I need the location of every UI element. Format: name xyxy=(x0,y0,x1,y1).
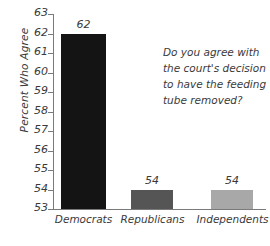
annotation-line-4: tube removed? xyxy=(163,92,270,108)
y-tick-label: 57 xyxy=(34,123,48,136)
y-tick-mark xyxy=(48,209,54,210)
bar-democrats[interactable]: 62 xyxy=(61,34,106,210)
bar-independents[interactable]: 54 xyxy=(211,190,253,210)
bar-chart: Percent Who Agree 63 62 61 60 59 58 xyxy=(0,0,270,246)
y-tick-mark xyxy=(48,34,54,35)
x-label-republicans: Republicans xyxy=(115,213,190,225)
annotation-line-2: the court's decision xyxy=(163,60,270,76)
y-tick-label: 60 xyxy=(34,65,48,78)
y-tick-label: 58 xyxy=(34,104,48,117)
y-tick-mark xyxy=(48,131,54,132)
x-label-democrats: Democrats xyxy=(47,213,120,225)
y-tick-label: 53 xyxy=(34,201,48,214)
y-tick-mark xyxy=(48,112,54,113)
y-tick-mark xyxy=(48,14,54,15)
y-axis-title: Percent Who Agree xyxy=(18,0,30,160)
x-axis-line xyxy=(53,209,266,210)
y-tick-mark xyxy=(48,73,54,74)
y-tick-label: 55 xyxy=(34,162,48,175)
annotation-line-1: Do you agree with xyxy=(163,44,270,60)
bar-republicans[interactable]: 54 xyxy=(131,190,173,210)
y-tick-mark xyxy=(48,190,54,191)
y-tick-label: 59 xyxy=(34,84,48,97)
y-tick-label: 56 xyxy=(34,143,48,156)
y-tick-mark xyxy=(48,151,54,152)
bar-value-label: 54 xyxy=(225,174,239,187)
y-tick-label: 63 xyxy=(34,6,48,19)
y-tick-label: 54 xyxy=(34,182,48,195)
bar-value-label: 54 xyxy=(145,174,159,187)
y-tick-mark xyxy=(48,92,54,93)
y-tick-mark xyxy=(48,170,54,171)
x-label-independents: Independents xyxy=(193,213,270,225)
question-annotation: Do you agree with the court's decision t… xyxy=(163,44,270,108)
annotation-line-3: to have the feeding xyxy=(163,76,270,92)
y-tick-label: 62 xyxy=(34,26,48,39)
y-tick-label: 61 xyxy=(34,45,48,58)
y-tick-mark xyxy=(48,53,54,54)
bar-value-label: 62 xyxy=(77,18,91,31)
